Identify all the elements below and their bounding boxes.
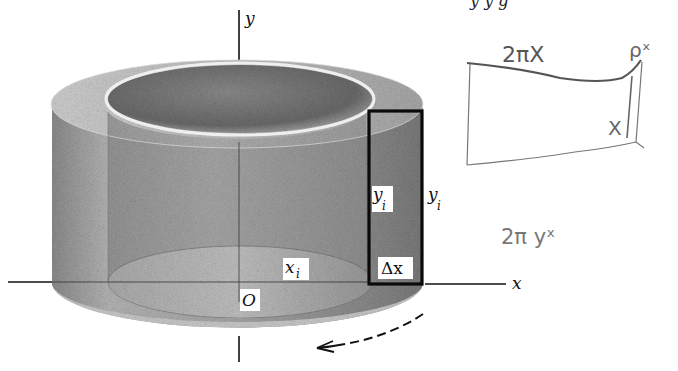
svg-text:O: O — [242, 290, 256, 310]
handwritten-top-right-note: ρˣ — [629, 38, 651, 62]
svg-text:Δx: Δx — [381, 258, 403, 278]
outer-height-label: y i — [427, 184, 441, 213]
svg-text:x: x — [285, 257, 295, 277]
svg-text:i: i — [437, 199, 441, 213]
cropped-caption-text: y y g — [469, 0, 509, 10]
inner-height-label: y i — [372, 184, 393, 213]
svg-text:x: x — [512, 273, 522, 293]
handwritten-sketch — [467, 60, 644, 165]
handwritten-formula: 2π yˣ — [501, 225, 555, 249]
radius-label: x i — [283, 257, 309, 281]
svg-text:y: y — [244, 8, 255, 28]
handwritten-inner-x: X — [608, 116, 622, 140]
svg-text:i: i — [382, 199, 386, 213]
y-axis-label: y — [244, 8, 255, 28]
inner-hole — [108, 65, 372, 318]
svg-text:i: i — [296, 267, 300, 281]
shell-method-figure: y y g — [0, 0, 678, 371]
handwritten-circumference: 2πX — [502, 42, 544, 67]
thickness-label: Δx — [378, 257, 413, 279]
x-axis-label: x — [512, 273, 522, 293]
origin-label: O — [240, 289, 260, 311]
diagram-canvas: y y g — [0, 0, 678, 371]
